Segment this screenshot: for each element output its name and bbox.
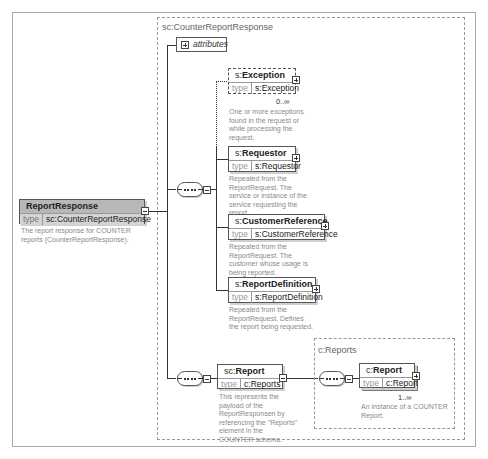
element-customer-reference[interactable]: s:CustomerReference types:CustomerRefere… (228, 214, 325, 240)
prefix: sc: (224, 366, 236, 376)
cardinality: 1..∞ (398, 393, 412, 402)
element-requestor[interactable]: s:Requestor types:Requestor (228, 146, 296, 172)
element-description: Repeated from the ReportRequest. Defines… (229, 306, 315, 332)
connector (216, 159, 228, 160)
expand-icon[interactable] (312, 285, 320, 293)
sequence-icon (184, 189, 196, 193)
type-key: type (229, 292, 252, 303)
collapse-icon[interactable] (279, 374, 287, 382)
sequence-compositor[interactable] (319, 371, 345, 386)
element-report[interactable]: sc:Report typec:Reports (217, 364, 283, 389)
type-key: type (360, 378, 383, 389)
type-value: s:CustomerReference (252, 229, 338, 240)
type-value: s:Exception (252, 83, 299, 94)
element-description: An instance of a COUNTER Report. (361, 403, 449, 420)
type-value: sc:CounterReportResponse (43, 214, 151, 225)
type-key: type (229, 161, 252, 172)
element-exception[interactable]: s:Exception types:Exception (228, 68, 296, 94)
element-description: One or more exceptions found in the requ… (229, 108, 311, 142)
cardinality: 0..∞ (276, 97, 290, 106)
attributes-label: attributes (193, 39, 228, 49)
sequence-icon (326, 378, 338, 382)
sequence-compositor[interactable] (177, 182, 203, 197)
type-key: type (20, 214, 43, 225)
type-key: type (218, 379, 241, 390)
type-value: s:ReportDefinition (252, 292, 323, 303)
attributes-button[interactable]: attributes (176, 37, 227, 52)
element-description: The report response for COUNTER reports … (21, 227, 146, 244)
element-report-definition[interactable]: s:ReportDefinition types:ReportDefinitio… (228, 277, 316, 303)
connector (149, 211, 167, 212)
sequence-compositor[interactable] (177, 371, 203, 386)
connector (167, 189, 176, 190)
element-name: ReportResponse (20, 200, 144, 214)
element-name: Exception (242, 70, 285, 80)
connector (167, 45, 168, 379)
type-key: type (229, 229, 252, 240)
element-description: Repeated from the ReportRequest. The ser… (229, 175, 311, 218)
prefix: s: (235, 148, 242, 158)
collapse-icon[interactable] (203, 186, 211, 194)
prefix: s: (235, 216, 242, 226)
sequence-icon (184, 378, 196, 382)
reports-type-title: c:Reports (318, 345, 357, 355)
collapse-icon[interactable] (141, 207, 149, 215)
expand-icon[interactable] (181, 41, 189, 49)
element-name: Requestor (242, 148, 287, 158)
element-name: Report (236, 366, 265, 376)
expand-icon[interactable] (412, 372, 420, 380)
connector (216, 290, 228, 291)
collapse-icon[interactable] (203, 375, 211, 383)
type-key: type (229, 83, 252, 94)
prefix: s: (235, 70, 242, 80)
connector (167, 378, 176, 379)
element-description: Repeated from the ReportRequest. The cus… (229, 243, 321, 277)
element-report-response[interactable]: ReportResponse typesc:CounterReportRespo… (19, 199, 145, 224)
element-description: This represents the payload of the Repor… (219, 393, 299, 445)
prefix: s: (235, 279, 242, 289)
complex-type-title: sc:CounterReportResponse (162, 22, 273, 32)
connector (216, 227, 228, 228)
collapse-icon[interactable] (345, 375, 353, 383)
expand-icon[interactable] (292, 76, 300, 84)
connector (216, 146, 217, 290)
expand-icon[interactable] (292, 154, 300, 162)
expand-icon[interactable] (321, 222, 329, 230)
type-value: s:Requestor (252, 161, 301, 172)
connector (167, 45, 176, 46)
prefix: c: (366, 365, 373, 375)
type-value: c:Reports (241, 379, 280, 390)
element-name: CustomerReference (242, 216, 328, 226)
element-c-report[interactable]: c:Report typec:Report (359, 363, 415, 388)
element-name: Report (373, 365, 402, 375)
element-name: ReportDefinition (242, 279, 313, 289)
